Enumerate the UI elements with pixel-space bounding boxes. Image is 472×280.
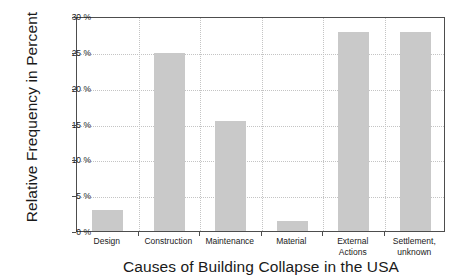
x-tick-mark <box>138 232 139 236</box>
gridline-horizontal <box>77 126 444 127</box>
x-tick-label: Settlement, unknown <box>393 236 436 258</box>
gridline-vertical <box>323 18 324 231</box>
y-tick-label: 30 % <box>45 12 91 22</box>
y-tick-mark <box>72 89 76 90</box>
x-tick-mark <box>261 232 262 236</box>
y-tick-mark <box>72 53 76 54</box>
bar <box>154 53 185 231</box>
bar <box>215 121 246 231</box>
plot-area <box>76 17 445 232</box>
bar <box>338 32 369 231</box>
x-tick-mark <box>384 232 385 236</box>
gridline-vertical <box>139 18 140 231</box>
gridline-horizontal <box>77 197 444 198</box>
y-tick-mark <box>72 196 76 197</box>
y-tick-mark <box>72 17 76 18</box>
y-tick-mark <box>72 232 76 233</box>
y-tick-label: 15 % <box>45 120 91 130</box>
x-tick-label: Construction <box>144 236 192 247</box>
gridline-vertical <box>262 18 263 231</box>
gridline-vertical <box>200 18 201 231</box>
bar-chart: Relative Frequency in Percent 0 %5 %10 %… <box>0 0 472 280</box>
x-tick-mark <box>199 232 200 236</box>
gridline-horizontal <box>77 161 444 162</box>
y-tick-label: 5 % <box>45 191 91 201</box>
bar <box>400 32 431 231</box>
y-tick-label: 0 % <box>45 227 91 237</box>
y-axis-title: Relative Frequency in Percent <box>23 2 41 232</box>
gridline-horizontal <box>77 90 444 91</box>
x-tick-label: Maintenance <box>205 236 254 247</box>
y-tick-label: 25 % <box>45 48 91 58</box>
x-axis-title: Causes of Building Collapse in the USA <box>76 258 446 276</box>
y-tick-mark <box>72 160 76 161</box>
bar <box>92 210 123 231</box>
y-tick-label: 20 % <box>45 84 91 94</box>
x-tick-label: Material <box>276 236 306 247</box>
bar <box>277 221 308 231</box>
gridline-horizontal <box>77 54 444 55</box>
y-tick-mark <box>72 125 76 126</box>
gridline-vertical <box>385 18 386 231</box>
x-tick-label: Design <box>94 236 120 247</box>
plot-inner <box>77 18 444 231</box>
x-tick-label: External Actions <box>337 236 368 258</box>
x-tick-mark <box>322 232 323 236</box>
y-tick-label: 10 % <box>45 155 91 165</box>
